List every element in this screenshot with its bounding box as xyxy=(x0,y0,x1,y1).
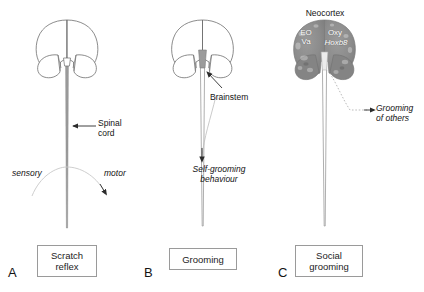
gene-label-eo-va: EO Va xyxy=(292,28,320,46)
brainstem-notch xyxy=(64,58,71,66)
label-motor: motor xyxy=(104,168,126,178)
gene-label-hoxb8: Hoxb8 xyxy=(318,38,354,47)
panel-c: Neocortex EO Va Oxy Hoxb8 Grooming of ot… xyxy=(276,0,424,292)
label-brainstem: Brainstem xyxy=(210,92,248,102)
caption-box-c: Social grooming xyxy=(295,245,363,277)
spinal-cord-shape xyxy=(322,64,326,226)
label-self-grooming-behaviour: Self-grooming behaviour xyxy=(176,164,262,184)
panel-letter-a: A xyxy=(8,266,17,279)
label-sensory: sensory xyxy=(12,168,42,178)
label-grooming-of-others: Grooming of others xyxy=(376,103,413,123)
brainstem-shape xyxy=(199,50,207,68)
panel-letter-c: C xyxy=(278,266,288,279)
panel-letter-b: B xyxy=(144,266,153,279)
figure-three-panel-grooming: Spinal cord sensory motor Scratch reflex… xyxy=(0,0,424,292)
panel-b: Brainstem Self-grooming behaviour Groomi… xyxy=(140,0,276,292)
motor-arrow xyxy=(100,184,106,194)
panel-a: Spinal cord sensory motor Scratch reflex… xyxy=(0,0,140,292)
brainstem-channel xyxy=(321,52,328,70)
caption-box-a: Scratch reflex xyxy=(37,245,97,277)
caption-box-b: Grooming xyxy=(169,248,237,270)
spinal-cord-shape xyxy=(66,62,69,228)
label-neocortex: Neocortex xyxy=(290,8,360,18)
gene-label-oxy: Oxy xyxy=(320,28,350,37)
label-spinal-cord: Spinal cord xyxy=(98,118,122,138)
